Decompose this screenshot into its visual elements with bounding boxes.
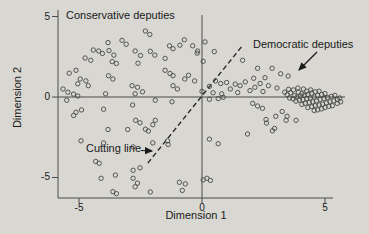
democratic-deputies-arrow bbox=[299, 52, 317, 70]
conservative-deputies-annotation: Conservative deputies bbox=[66, 9, 175, 21]
data-point bbox=[245, 132, 249, 136]
data-point bbox=[131, 168, 135, 172]
data-point bbox=[171, 84, 175, 88]
data-point bbox=[203, 40, 207, 44]
data-point bbox=[61, 87, 65, 91]
data-point bbox=[113, 173, 117, 177]
data-point bbox=[101, 107, 105, 111]
data-point bbox=[131, 176, 135, 180]
data-point bbox=[66, 90, 70, 94]
y-tick-label-5: 5 bbox=[30, 11, 50, 23]
data-point bbox=[180, 188, 184, 192]
data-point bbox=[182, 38, 186, 42]
data-point bbox=[171, 47, 175, 51]
data-point bbox=[255, 66, 259, 70]
data-point bbox=[83, 56, 87, 60]
data-point bbox=[240, 58, 244, 62]
data-point bbox=[170, 100, 174, 104]
data-point bbox=[106, 127, 110, 131]
data-point bbox=[286, 74, 290, 78]
data-point bbox=[260, 106, 264, 110]
data-point bbox=[207, 97, 211, 101]
data-point bbox=[153, 98, 157, 102]
data-point bbox=[294, 118, 298, 122]
data-point bbox=[211, 91, 215, 95]
data-point bbox=[261, 89, 265, 93]
data-point bbox=[296, 86, 300, 90]
data-point bbox=[238, 84, 242, 88]
cutting-line-annotation: Cutting line bbox=[86, 142, 141, 154]
data-point bbox=[148, 190, 152, 194]
data-point bbox=[178, 43, 182, 47]
data-point bbox=[76, 94, 80, 98]
data-point bbox=[84, 79, 88, 83]
plot-canvas bbox=[0, 0, 369, 234]
data-point bbox=[219, 81, 223, 85]
data-point bbox=[74, 68, 78, 72]
data-point bbox=[207, 137, 211, 141]
data-point bbox=[270, 66, 274, 70]
data-point bbox=[177, 180, 181, 184]
data-point bbox=[279, 72, 283, 76]
data-point bbox=[78, 77, 82, 81]
data-point bbox=[140, 90, 144, 94]
data-point bbox=[183, 182, 187, 186]
data-point bbox=[120, 38, 124, 42]
data-point bbox=[65, 98, 69, 102]
data-point bbox=[76, 82, 80, 86]
data-point bbox=[107, 48, 111, 52]
data-point bbox=[100, 51, 104, 55]
data-point bbox=[280, 109, 284, 113]
data-point bbox=[163, 56, 167, 60]
data-point bbox=[133, 92, 137, 96]
data-point bbox=[135, 85, 139, 89]
data-point bbox=[212, 49, 216, 53]
data-point bbox=[175, 87, 179, 91]
data-point bbox=[224, 80, 228, 84]
data-point bbox=[255, 104, 259, 108]
x-tick-label-0: 0 bbox=[191, 202, 213, 214]
data-point bbox=[153, 118, 157, 122]
data-point bbox=[99, 176, 103, 180]
data-point bbox=[138, 53, 142, 57]
data-point bbox=[130, 84, 134, 88]
x-tick-label-5: 5 bbox=[314, 202, 336, 214]
data-point bbox=[186, 73, 190, 77]
data-point bbox=[110, 59, 114, 63]
data-point bbox=[106, 40, 110, 44]
data-point bbox=[112, 53, 116, 57]
x-tick-label-minus5: -5 bbox=[68, 202, 90, 214]
y-axis-label: Dimension 2 bbox=[11, 48, 24, 148]
data-point bbox=[133, 185, 137, 189]
data-point bbox=[103, 92, 107, 96]
data-point bbox=[153, 53, 157, 57]
data-point bbox=[284, 118, 288, 122]
data-point bbox=[126, 127, 130, 131]
y-tick-label-0: 0 bbox=[30, 91, 50, 103]
data-point bbox=[89, 58, 93, 62]
data-point bbox=[233, 82, 237, 86]
data-point bbox=[251, 101, 255, 105]
data-point bbox=[67, 71, 71, 75]
data-point bbox=[91, 48, 95, 52]
data-point bbox=[79, 108, 83, 112]
data-point bbox=[275, 86, 279, 90]
data-point bbox=[183, 77, 187, 81]
data-point bbox=[243, 80, 247, 84]
data-point bbox=[111, 77, 115, 81]
data-point bbox=[71, 113, 75, 117]
data-point bbox=[208, 178, 212, 182]
data-point bbox=[97, 161, 101, 165]
cutting-line-arrow bbox=[141, 151, 152, 152]
data-point bbox=[191, 44, 195, 48]
cutting-line-dashed bbox=[148, 45, 243, 163]
data-point bbox=[114, 61, 118, 65]
data-point bbox=[130, 103, 134, 107]
data-point bbox=[288, 91, 292, 95]
data-point bbox=[79, 139, 83, 143]
data-point bbox=[151, 141, 155, 145]
data-point bbox=[143, 29, 147, 33]
data-point bbox=[86, 84, 90, 88]
data-point bbox=[148, 49, 152, 53]
data-point bbox=[248, 88, 252, 92]
